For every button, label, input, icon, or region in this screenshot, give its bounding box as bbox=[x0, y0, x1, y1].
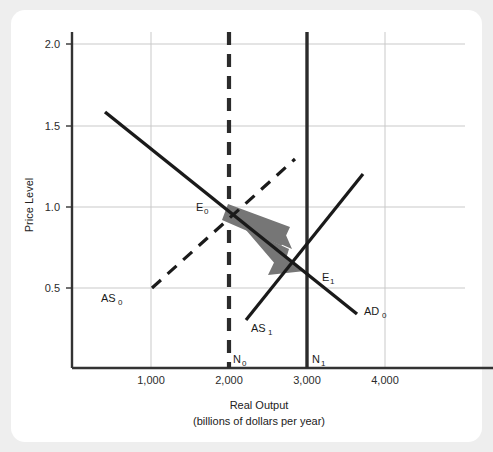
x-axis-title-units: (billions of dollars per year) bbox=[193, 415, 325, 427]
x-tick-label-1000: 1,000 bbox=[137, 374, 165, 386]
x-tick-label-2000: 2,000 bbox=[215, 374, 243, 386]
potential-output-label-n1: N 1 bbox=[312, 353, 326, 368]
equilibrium-label-e1-text: E bbox=[322, 271, 329, 283]
axes bbox=[66, 32, 493, 368]
y-tick-label-0.5: 0.5 bbox=[45, 282, 60, 294]
x-tick-label-3000: 3,000 bbox=[293, 374, 321, 386]
x-tick-labels: 1,000 2,000 3,000 4,000 bbox=[137, 374, 399, 386]
equilibrium-label-e0-text: E bbox=[196, 201, 203, 213]
equilibrium-label-e1-subscript: 1 bbox=[330, 277, 335, 286]
curve-label-as0-subscript: 0 bbox=[118, 298, 123, 307]
grid-lines bbox=[72, 32, 465, 368]
potential-output-label-n0-subscript: 0 bbox=[242, 359, 247, 368]
y-axis-title: Price Level bbox=[23, 178, 35, 232]
potential-output-label-n1-text: N bbox=[312, 353, 320, 365]
economics-chart: 1,000 2,000 3,000 4,000 2.0 1.5 1.0 0.5 … bbox=[0, 0, 493, 452]
curve-label-as0: AS 0 bbox=[101, 292, 123, 307]
y-tick-labels: 2.0 1.5 1.0 0.5 bbox=[45, 38, 60, 294]
curve-label-ad0-text: AD bbox=[364, 305, 379, 317]
x-axis-title: Real Output bbox=[230, 399, 289, 411]
x-tick-label-4000: 4,000 bbox=[371, 374, 399, 386]
curve-label-ad0-subscript: 0 bbox=[382, 311, 387, 320]
y-tick-label-1.0: 1.0 bbox=[45, 201, 60, 213]
equilibrium-label-e0-subscript: 0 bbox=[204, 207, 209, 216]
curve-label-as1-subscript: 1 bbox=[268, 328, 273, 337]
y-tick-label-1.5: 1.5 bbox=[45, 120, 60, 132]
potential-output-label-n0-text: N bbox=[233, 353, 241, 365]
curve-label-ad0: AD 0 bbox=[364, 305, 387, 320]
curve-label-as0-text: AS bbox=[101, 292, 116, 304]
potential-output-label-n0: N 0 bbox=[233, 353, 247, 368]
y-tick-label-2.0: 2.0 bbox=[45, 38, 60, 50]
curve-label-as1: AS 1 bbox=[251, 322, 273, 337]
equilibrium-label-e0: E 0 bbox=[196, 201, 209, 216]
equilibrium-label-e1: E 1 bbox=[322, 271, 335, 286]
curve-label-as1-text: AS bbox=[251, 322, 266, 334]
potential-output-label-n1-subscript: 1 bbox=[321, 359, 326, 368]
